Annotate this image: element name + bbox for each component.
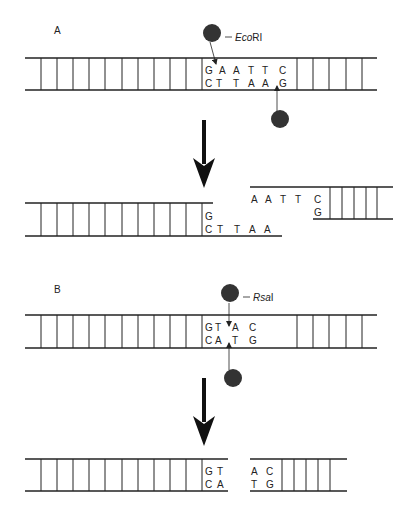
base-pair-rungs-right [297, 315, 362, 348]
svg-text:A: A [215, 335, 222, 346]
svg-text:T: T [215, 322, 221, 333]
svg-text:A: A [265, 194, 272, 205]
svg-text:T: T [295, 194, 301, 205]
svg-text:T: T [217, 466, 223, 477]
enzyme-rsai-bottom-icon [224, 369, 242, 387]
panel-b: B RsaI G T A [25, 284, 377, 491]
enzyme-ecori-top-icon [203, 24, 221, 42]
svg-text:A: A [219, 65, 226, 76]
svg-text:A: A [262, 78, 269, 89]
restriction-digest-diagram: A EcoRI G [0, 0, 409, 508]
svg-text:G: G [249, 335, 257, 346]
svg-text:T: T [217, 224, 223, 235]
svg-text:C: C [314, 194, 321, 205]
reaction-arrow-a-icon [193, 120, 215, 188]
svg-text:A: A [217, 479, 224, 490]
svg-text:C: C [205, 479, 212, 490]
svg-text:A: A [232, 322, 239, 333]
reaction-arrow-b-icon [193, 378, 215, 446]
base-pair-rungs-left [41, 58, 202, 90]
svg-text:T: T [251, 479, 257, 490]
enzyme-ecori-bottom-icon [271, 110, 289, 128]
svg-text:G: G [266, 479, 274, 490]
svg-text:G: G [205, 211, 213, 222]
svg-text:T: T [280, 194, 286, 205]
enzyme-b-name: RsaI [253, 292, 274, 303]
svg-text:A: A [251, 466, 258, 477]
product-a-left-fragment: G C T T A A [25, 203, 282, 236]
svg-text:G: G [205, 466, 213, 477]
svg-text:C: C [205, 335, 212, 346]
svg-text:T: T [262, 65, 268, 76]
svg-text:G: G [279, 78, 287, 89]
svg-text:A: A [264, 224, 271, 235]
product-a-right-fragment: A A T T C G [250, 187, 393, 219]
enzyme-rsai-top-icon [221, 284, 239, 302]
cut-arrow-top [210, 42, 216, 64]
panel-b-label: B [54, 284, 61, 295]
svg-text:T: T [248, 65, 254, 76]
recognition-site-b: G T A C C A T G [205, 322, 257, 346]
svg-text:C: C [205, 78, 212, 89]
panel-a-label: A [54, 25, 61, 36]
svg-text:T: T [233, 78, 239, 89]
svg-text:A: A [248, 78, 255, 89]
svg-text:C: C [279, 65, 286, 76]
base-pair-rungs-left [41, 315, 202, 348]
svg-text:T: T [234, 224, 240, 235]
svg-text:T: T [232, 335, 238, 346]
base-pair-rungs-right [297, 58, 362, 90]
svg-text:C: C [205, 224, 212, 235]
panel-a: A EcoRI G [25, 24, 393, 236]
svg-text:A: A [233, 65, 240, 76]
enzyme-a-name: EcoRI [235, 32, 262, 43]
product-b-right-fragment: A C T G [250, 459, 347, 491]
svg-text:G: G [314, 207, 322, 218]
svg-text:A: A [251, 194, 258, 205]
svg-text:A: A [249, 224, 256, 235]
svg-text:C: C [266, 466, 273, 477]
svg-text:G: G [205, 322, 213, 333]
recognition-site-a: G A A T T C C T T A A G [205, 65, 287, 89]
svg-text:G: G [205, 65, 213, 76]
product-b-left-fragment: G T C A [25, 459, 228, 491]
svg-text:C: C [249, 322, 256, 333]
svg-text:T: T [216, 78, 222, 89]
